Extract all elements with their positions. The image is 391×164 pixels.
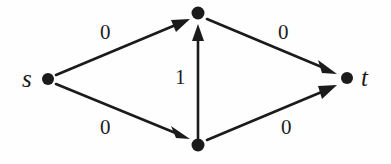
edge-line-bottom-t: [207, 91, 324, 140]
edge-label-top-to-t: 0: [278, 22, 289, 43]
edge-bottom-to-t: [207, 85, 337, 140]
node-label-t: t: [361, 65, 368, 90]
edge-top-to-t: [207, 19, 337, 74]
node-top[interactable]: [192, 7, 205, 20]
edge-s-to-top: [56, 19, 190, 75]
edge-bottom-to-top: [192, 24, 204, 138]
edge-label-s-to-bottom: 0: [100, 117, 111, 138]
arrowhead-bottom-top: [192, 24, 204, 41]
arrowhead-bottom-t: [318, 85, 337, 99]
node-label-s: s: [22, 66, 32, 91]
flow-network-figure: s t 0 0 0 0 1: [0, 0, 391, 164]
edge-line-s-top: [56, 24, 178, 75]
node-s[interactable]: [42, 73, 54, 85]
edge-line-top-t: [207, 19, 324, 68]
edge-label-s-to-top: 0: [100, 22, 111, 43]
edge-label-bottom-to-top: 1: [175, 67, 186, 88]
node-t[interactable]: [341, 72, 353, 84]
edge-label-bottom-to-t: 0: [281, 117, 292, 138]
arrowhead-s-bottom: [171, 126, 190, 139]
arrowhead-s-top: [171, 19, 190, 32]
arrowhead-top-t: [318, 60, 337, 74]
graph-canvas: [0, 0, 391, 164]
edge-s-to-bottom: [56, 84, 190, 139]
edge-line-s-bottom: [56, 84, 178, 134]
node-bottom[interactable]: [192, 139, 205, 152]
